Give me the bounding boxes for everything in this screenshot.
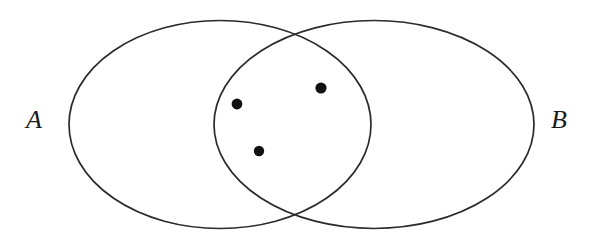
venn-diagram-figure: A B — [0, 0, 605, 237]
element-dot — [315, 82, 326, 93]
element-dot — [254, 146, 264, 156]
element-dot — [232, 99, 243, 110]
figure-background — [0, 0, 605, 237]
venn-diagram-canvas — [0, 0, 605, 237]
set-a-label: A — [26, 107, 42, 133]
set-b-label: B — [551, 107, 567, 133]
